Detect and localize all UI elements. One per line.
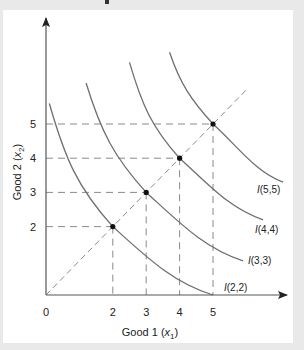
curve-label: I(4,4) [255, 224, 278, 235]
axes [46, 18, 287, 295]
indifference-curve-chart: 0 23452345 I(2,2)I(3,3)I(4,4)I(5,5) Good… [0, 0, 304, 350]
y-tick-label: 2 [30, 221, 36, 233]
y-tick-label: 3 [30, 186, 36, 198]
curve-label: I(3,3) [248, 255, 271, 266]
curve-label: I(5,5) [257, 184, 280, 195]
x-tick-label: 5 [210, 306, 216, 318]
curve-label: I(2,2) [224, 282, 247, 293]
tangent-point-dot [144, 190, 149, 195]
origin-label: 0 [43, 306, 49, 318]
x-tick-label: 4 [177, 306, 183, 318]
tangent-point-dot [210, 121, 215, 126]
y-axis-label: Good 2 (x2) [11, 144, 26, 200]
x-tick-label: 3 [143, 306, 149, 318]
y-tick-label: 5 [30, 118, 36, 130]
x-axis-label: Good 1 (x1) [122, 326, 178, 341]
tangent-point-dot [177, 156, 182, 161]
y-tick-label: 4 [30, 152, 36, 164]
tick-labels: 0 23452345 [30, 118, 216, 318]
tangent-point-dot [110, 224, 115, 229]
indifference-curve-3 [86, 83, 243, 261]
curve-labels: I(2,2)I(3,3)I(4,4)I(5,5) [224, 184, 280, 293]
x-tick-label: 2 [110, 306, 116, 318]
indifference-curve-5 [170, 52, 284, 182]
